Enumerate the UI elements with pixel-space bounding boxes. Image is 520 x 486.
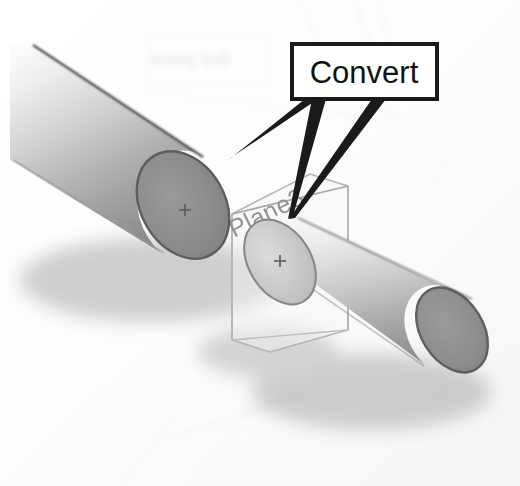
- callout-layer: Convert: [0, 0, 520, 486]
- callout-label: Convert: [310, 55, 419, 90]
- figure-canvas: 3rd point Plane3: [0, 0, 520, 486]
- convert-callout[interactable]: Convert: [292, 44, 437, 99]
